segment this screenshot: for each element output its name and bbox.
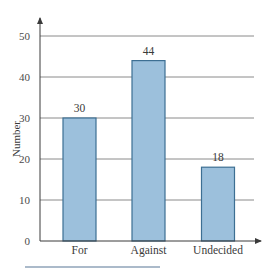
y-tick-label: 0 (25, 235, 31, 247)
x-category-label: For (72, 244, 88, 256)
bar-against (132, 61, 165, 241)
data-label: 30 (74, 102, 86, 114)
bar-chart: 01020304050 304418 ForAgainstUndecided N… (0, 0, 277, 272)
data-label: 18 (212, 151, 224, 163)
bar-for (63, 118, 96, 241)
y-tick-label: 10 (19, 194, 31, 206)
bars (63, 61, 235, 241)
bar-undecided (202, 167, 235, 241)
y-axis-label: Number (10, 121, 22, 157)
y-tick-label: 50 (19, 30, 31, 42)
data-label: 44 (143, 45, 155, 57)
x-category-label: Undecided (193, 244, 243, 256)
y-tick-label: 40 (19, 71, 31, 83)
x-axis-categories: ForAgainstUndecided (72, 244, 244, 257)
x-category-label: Against (131, 244, 168, 257)
